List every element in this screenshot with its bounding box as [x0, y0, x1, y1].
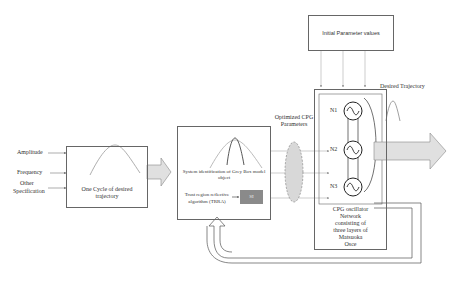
initial-params-label: Initial Parameter values — [308, 30, 394, 37]
cpg-caption-1: CPG oscillator — [314, 206, 387, 213]
input-amplitude: Amplitude — [17, 149, 43, 156]
trra-line2: algorithm (TRRA) — [181, 198, 233, 205]
input-frequency: Frequency — [17, 169, 42, 176]
desired-trajectory-label: Desired Trajectory — [380, 83, 425, 90]
node-n3-label: N3 — [330, 183, 337, 190]
fat-arrow-cycle-to-sysid — [147, 158, 171, 186]
optimized-line2: Parameters — [271, 121, 317, 128]
cpg-caption-2: Network — [314, 213, 387, 220]
input-other-line1: Other — [20, 180, 34, 187]
cycle-box-line1: One Cycle of desired — [66, 186, 148, 193]
input-other-line2: Specification — [13, 188, 45, 195]
sysid-line2: object — [177, 174, 271, 181]
desired-trajectory-curve — [386, 101, 400, 121]
cpg-caption-6: Osce — [314, 241, 387, 248]
si-block: SI — [240, 190, 263, 204]
optimized-params-ellipse — [285, 142, 303, 202]
cpg-caption-3: consisting of — [314, 220, 387, 227]
cpg-caption-4: three layers of — [314, 227, 387, 234]
optimized-line1: Optimized CPG — [271, 114, 317, 121]
cpg-caption-5: Matsuoka — [314, 234, 387, 241]
cycle-box-line2: trajectory — [66, 193, 148, 200]
trra-line1: Trust region reflective — [181, 191, 233, 198]
node-n1-label: N1 — [330, 107, 337, 114]
node-n2-label: N2 — [330, 146, 337, 153]
